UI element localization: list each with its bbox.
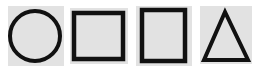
triangle-shape: [204, 12, 248, 60]
square-shape-1: [74, 13, 123, 59]
square-shape-2: [142, 10, 185, 61]
circle-shape: [10, 11, 60, 61]
shapes-canvas: [0, 0, 254, 71]
